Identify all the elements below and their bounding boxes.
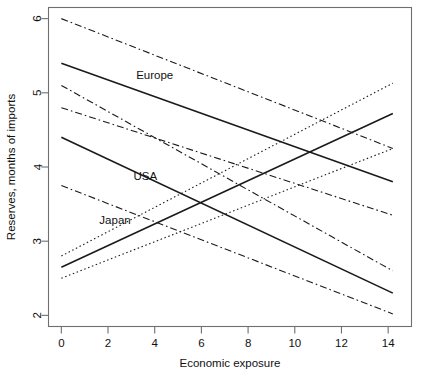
confidence-band-usa	[61, 85, 392, 270]
chart-container: 23456 02468101214 EuropeUSAJapan Economi…	[0, 0, 423, 379]
line-chart: 23456 02468101214 EuropeUSAJapan Economi…	[0, 0, 423, 379]
x-axis-ticks	[61, 327, 388, 334]
x-tick-label: 14	[382, 337, 395, 349]
x-tick-label: 2	[105, 337, 111, 349]
x-tick-label: 0	[58, 337, 64, 349]
series-label-usa: USA	[134, 170, 158, 182]
y-tick-label: 2	[32, 312, 44, 318]
series-label-europe: Europe	[136, 69, 173, 81]
series-label-japan: Japan	[99, 214, 130, 226]
x-tick-label: 6	[198, 337, 204, 349]
y-tick-label: 4	[32, 163, 44, 170]
y-tick-label: 3	[32, 238, 44, 244]
y-tick-label: 6	[32, 15, 44, 21]
confidence-band-japan	[61, 83, 392, 256]
x-tick-label: 10	[288, 337, 301, 349]
x-axis-title: Economic exposure	[180, 357, 281, 369]
x-tick-label: 12	[335, 337, 348, 349]
fit-line-japan	[61, 114, 392, 268]
confidence-band-europe	[61, 19, 392, 149]
y-axis-tick-labels: 23456	[32, 15, 44, 318]
y-axis-title: Reserves, months of imports	[5, 94, 17, 241]
x-tick-label: 4	[152, 337, 159, 349]
x-axis-tick-labels: 02468101214	[58, 337, 395, 349]
x-tick-label: 8	[245, 337, 251, 349]
series-annotations: EuropeUSAJapan	[99, 69, 173, 226]
fit-line-europe	[61, 63, 392, 182]
confidence-band-usa	[61, 186, 392, 314]
plot-frame	[49, 8, 412, 327]
y-tick-label: 5	[32, 90, 44, 96]
